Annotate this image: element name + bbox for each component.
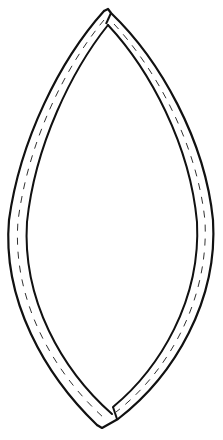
left-strip-outer-edge (8, 11, 104, 425)
top-tip-seam (106, 13, 111, 24)
illustration-canvas: Pointed oval (vesica / leaf-shaped) fram… (0, 0, 223, 440)
bottom-tip-seam (113, 407, 117, 419)
bottom-tip-cap (97, 419, 118, 428)
left-strip-stitching (17, 20, 104, 418)
right-strip-inner-edge (108, 25, 197, 407)
right-strip-outer-edge (111, 13, 213, 419)
top-tip-cap (104, 9, 111, 13)
left-strip-inner-edge (27, 25, 112, 414)
vesica-frame-drawing (0, 0, 223, 440)
